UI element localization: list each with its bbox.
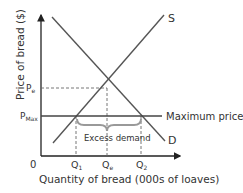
demand-curve	[52, 17, 165, 141]
excess-demand-label: Excess demand	[84, 133, 151, 143]
supply-label: S	[168, 12, 175, 25]
pmax-label: PMax	[20, 111, 38, 122]
demand-label: D	[168, 134, 176, 147]
x-axis-title: Quantity of bread (000s of loaves)	[39, 173, 219, 185]
q1-label: Q1	[71, 159, 82, 171]
y-axis-title: Price of bread ($)	[14, 9, 26, 100]
maximum-price-label: Maximum price	[166, 111, 243, 122]
supply-demand-diagram: S D Maximum price Excess demand Pe PMax …	[0, 0, 243, 193]
origin-label: 0	[30, 159, 36, 170]
pe-label: Pe	[26, 83, 35, 94]
excess-demand-brace	[77, 119, 141, 131]
qe-label: Qe	[102, 159, 113, 171]
q2-label: Q2	[136, 159, 147, 171]
